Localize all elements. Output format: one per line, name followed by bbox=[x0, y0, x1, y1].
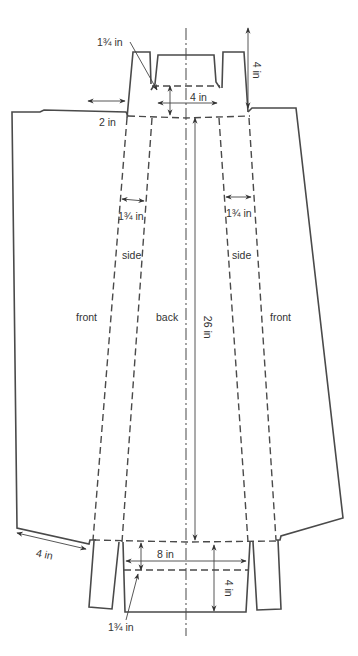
top-center-width-label: 4 in bbox=[190, 92, 207, 103]
side-right-outer-seam bbox=[249, 118, 276, 540]
side-left-inner-seam bbox=[122, 118, 152, 542]
side-right-width-label: 1¾ in bbox=[226, 208, 252, 219]
bottom-tab-height-label: 4 in bbox=[223, 580, 234, 597]
bottom-left-tab bbox=[89, 541, 119, 609]
top-left-tab bbox=[127, 52, 151, 118]
top-tab-height-label: 4 in bbox=[251, 62, 262, 79]
bottom-right-tab bbox=[253, 540, 281, 610]
side-right-inner-seam bbox=[219, 118, 248, 542]
front-left-label: front bbox=[76, 312, 97, 323]
front-right-outline bbox=[248, 108, 343, 540]
bottom-center-width-label: 8 in bbox=[157, 549, 174, 560]
side-left-label: side bbox=[122, 250, 141, 261]
side-left-outer-seam bbox=[93, 118, 127, 540]
waist-line bbox=[128, 116, 250, 118]
top-waistband-depth-label: 1¾ in bbox=[97, 37, 123, 48]
side-left-width-label: 1¾ in bbox=[118, 211, 144, 222]
top-right-tab bbox=[222, 52, 248, 112]
pattern-diagram bbox=[0, 0, 358, 656]
side-right-label: side bbox=[232, 250, 251, 261]
front-right-label: front bbox=[270, 312, 291, 323]
back-label: back bbox=[156, 312, 178, 323]
bottom-band-depth-label: 1¾ in bbox=[108, 622, 134, 633]
length-label: 26 in bbox=[202, 316, 213, 339]
front-top-width-label: 2 in bbox=[99, 117, 116, 128]
hem-line bbox=[93, 540, 278, 542]
